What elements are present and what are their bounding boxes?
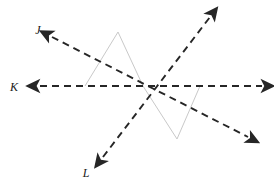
line-label-l: L	[82, 166, 90, 180]
line-label-j: J	[35, 23, 41, 37]
diagram-canvas: J K L	[0, 0, 274, 191]
geometry-diagram: J K L	[0, 0, 274, 191]
line-label-k: K	[9, 80, 19, 94]
dashed-line-l	[103, 17, 210, 157]
dashed-line-j	[52, 37, 248, 137]
